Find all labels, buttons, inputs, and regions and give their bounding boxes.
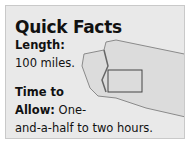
time-line2: Allow: One- — [15, 103, 86, 117]
quick-facts-card: Quick Facts Length: 100 miles. Time to A… — [5, 5, 185, 139]
time-label-line1: Time to — [15, 85, 64, 99]
length-value: 100 miles. — [15, 56, 75, 70]
time-label-line2: Allow: — [15, 103, 55, 117]
card-title: Quick Facts — [15, 17, 122, 37]
length-label: Length: — [15, 38, 65, 52]
time-value-line1: One- — [55, 103, 86, 117]
time-value-line2: and-a-half to two hours. — [15, 121, 153, 135]
washington-map-icon — [76, 36, 185, 118]
